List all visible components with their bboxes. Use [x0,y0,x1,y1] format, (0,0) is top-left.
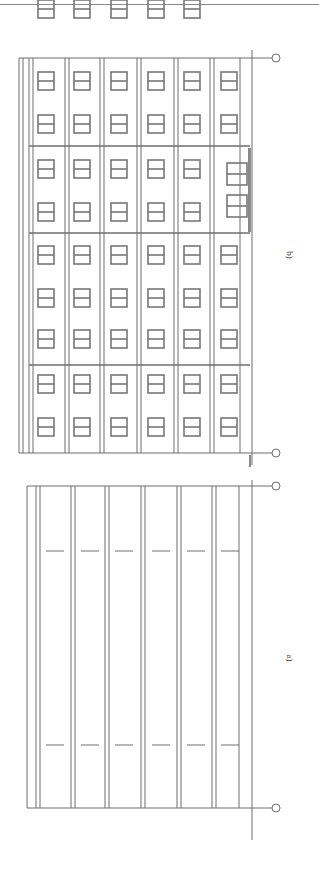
last-column-windows [221,72,237,436]
architectural-drawing [0,0,319,872]
entrance-doors [227,163,247,217]
plan-a [27,480,272,840]
axis-marker-bottom-a [272,804,280,812]
panel-label-a: a) [285,655,295,662]
axis-marker-top-b [272,54,280,62]
panel-label-b: b) [285,251,295,259]
facade-elevation-b [19,50,272,467]
facade-windows [38,0,200,18]
axis-marker-bottom-b [272,449,280,457]
axis-marker-top-a [272,482,280,490]
